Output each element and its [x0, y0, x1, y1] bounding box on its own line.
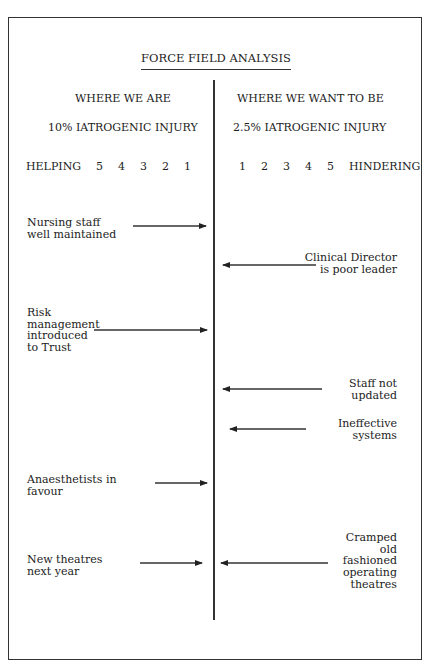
force-arrows [0, 0, 432, 670]
